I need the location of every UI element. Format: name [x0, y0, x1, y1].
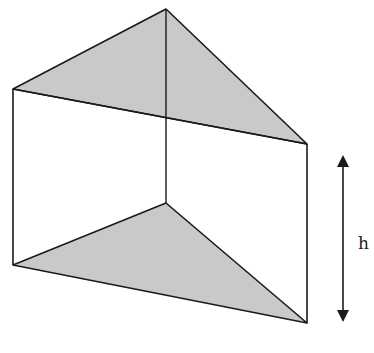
- prism-diagram: h: [0, 0, 374, 353]
- height-label: h: [358, 233, 369, 253]
- bottom-face: [13, 203, 307, 323]
- height-arrow-icon: [337, 155, 349, 322]
- top-face: [13, 9, 307, 144]
